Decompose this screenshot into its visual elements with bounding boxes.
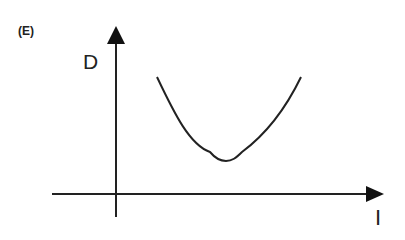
- y-axis-arrowhead-icon: [107, 26, 125, 44]
- x-axis-arrowhead-icon: [366, 186, 384, 202]
- diagram-canvas: [0, 0, 405, 240]
- u-curve: [157, 77, 301, 161]
